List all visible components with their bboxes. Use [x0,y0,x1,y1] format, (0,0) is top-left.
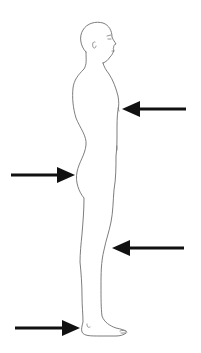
eye [107,35,111,39]
human-figure [73,22,127,336]
arrows [11,101,186,336]
front-outline [101,63,126,331]
arrow-head [112,240,130,256]
arrow-head [62,320,80,336]
toes [120,330,127,333]
arrow-heel [15,320,80,336]
arrow-chest [122,101,186,117]
posture-diagram [0,0,201,353]
arrow-head [122,101,140,117]
ear [93,42,96,48]
arrow-buttocks [11,167,75,183]
ankle-mark [87,324,90,327]
arrow-head [57,167,75,183]
arrow-calf [112,240,184,256]
